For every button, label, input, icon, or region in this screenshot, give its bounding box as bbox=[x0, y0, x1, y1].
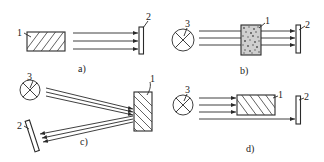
label-1: 1 bbox=[278, 89, 283, 100]
label-1: 1 bbox=[17, 27, 22, 38]
object-1-hatched bbox=[130, 84, 160, 154]
detector-2 bbox=[139, 27, 144, 54]
lamp-3 bbox=[172, 29, 194, 51]
lamp-3 bbox=[20, 80, 40, 100]
caption-a: a) bbox=[78, 63, 86, 75]
label-3: 3 bbox=[185, 18, 190, 29]
panel-a: 1 2 a) bbox=[17, 11, 151, 75]
label-2: 2 bbox=[304, 91, 309, 102]
optical-diagram: 1 2 a) bbox=[0, 0, 324, 162]
object-1-granular bbox=[241, 25, 261, 55]
caption-d: d) bbox=[246, 143, 254, 155]
label-1: 1 bbox=[150, 73, 155, 84]
panel-b: 3 1 2 b) bbox=[172, 15, 310, 77]
detector-2-tilted bbox=[25, 120, 39, 152]
object-1-hatched bbox=[20, 26, 84, 58]
lamp-3 bbox=[173, 95, 193, 115]
label-2: 2 bbox=[146, 11, 151, 22]
label-3: 3 bbox=[27, 71, 32, 82]
incident-rays bbox=[46, 88, 133, 115]
label-2: 2 bbox=[17, 120, 22, 131]
detector-2 bbox=[296, 96, 301, 124]
caption-c: c) bbox=[80, 136, 88, 148]
caption-b: b) bbox=[240, 65, 248, 77]
rays bbox=[73, 33, 138, 49]
label-3: 3 bbox=[185, 84, 190, 95]
panel-d: 3 1 2 d) bbox=[173, 84, 309, 155]
panel-c: 3 1 2 c) bbox=[17, 71, 160, 154]
label-1: 1 bbox=[265, 15, 270, 26]
label-2: 2 bbox=[305, 19, 310, 30]
